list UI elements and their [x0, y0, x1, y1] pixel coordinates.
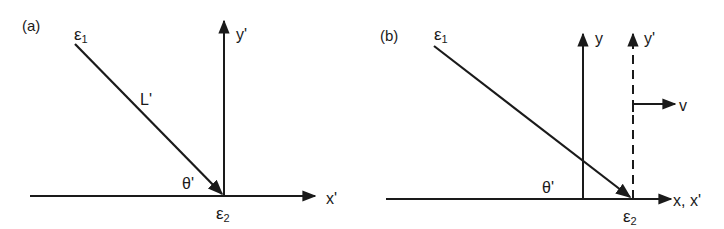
light-path-arrow: [75, 44, 222, 194]
relativity-diagram: (a) x' y' ε1 L' θ' ε2 (b) x, x' y y': [0, 0, 724, 229]
y-prime-axis-label: y': [236, 26, 247, 43]
velocity-label: v: [679, 97, 687, 114]
panel-a: (a) x' y' ε1 L' θ' ε2: [22, 17, 337, 224]
panel-a-label: (a): [22, 17, 40, 34]
x-prime-axis-label: x': [326, 190, 337, 207]
y-prime-axis-label: y': [644, 30, 655, 47]
y-axis-label: y: [595, 30, 603, 47]
panel-b-label: (b): [380, 27, 398, 44]
event-2-label: ε2: [623, 207, 637, 227]
light-path-arrow: [434, 46, 630, 197]
angle-label: θ': [542, 179, 554, 196]
event-1-label: ε1: [434, 25, 448, 45]
event-1-label: ε1: [74, 25, 88, 45]
length-label: L': [140, 91, 152, 108]
x-axis-label: x, x': [673, 192, 701, 209]
event-2-label: ε2: [216, 204, 230, 224]
angle-label: θ': [182, 175, 194, 192]
panel-b: (b) x, x' y y' v ε1 θ' ε2: [380, 25, 701, 227]
